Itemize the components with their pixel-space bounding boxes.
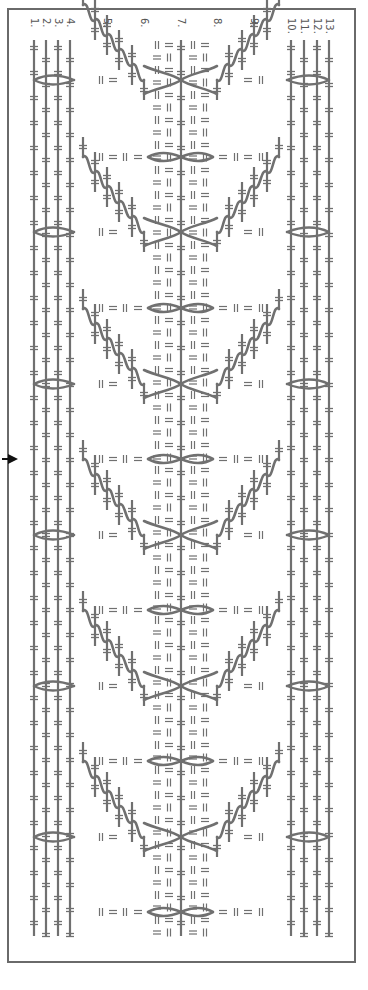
cable-chart	[0, 0, 368, 990]
column-label: 8.	[212, 18, 222, 28]
column-label: 10.	[286, 18, 296, 34]
column-label: 1.	[29, 18, 39, 28]
column-label: 2.	[41, 18, 51, 28]
column-label: 11.	[299, 18, 309, 34]
column-label: 7.	[176, 18, 186, 28]
column-label: 6.	[139, 18, 149, 28]
column-label: 9.	[249, 18, 259, 28]
column-label: 4.	[65, 18, 75, 28]
column-label: 13.	[324, 18, 334, 34]
column-label: 5.	[102, 18, 112, 28]
column-label: 12.	[312, 18, 322, 34]
column-label: 3.	[53, 18, 63, 28]
arrow-right-icon	[8, 454, 18, 464]
